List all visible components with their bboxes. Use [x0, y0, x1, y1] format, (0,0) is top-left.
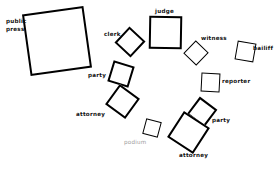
shape-judge[interactable] [149, 16, 183, 50]
label-party-left: party [88, 71, 106, 79]
shape-party-left[interactable] [107, 60, 134, 87]
label-witness: witness [201, 34, 227, 42]
label-judge: judge [155, 7, 174, 15]
label-public-press: public press [6, 17, 36, 33]
shape-reporter[interactable] [201, 73, 221, 93]
label-public-press-line1: public [6, 18, 27, 24]
label-public-press-line2: press [6, 26, 24, 32]
label-podium: podium [124, 138, 147, 146]
label-attorney-left: attorney [76, 110, 105, 118]
shape-attorney-left[interactable] [105, 84, 140, 119]
shape-witness[interactable] [183, 40, 208, 65]
label-party-right: party [212, 116, 230, 124]
label-bailiff: bailiff [253, 44, 273, 52]
label-attorney-right: attorney [179, 151, 208, 159]
courtroom-layout-diagram: public press clerk judge witness bailiff… [0, 0, 280, 169]
shape-podium[interactable] [142, 118, 162, 138]
label-clerk: clerk [104, 30, 121, 38]
label-reporter: reporter [222, 77, 250, 85]
